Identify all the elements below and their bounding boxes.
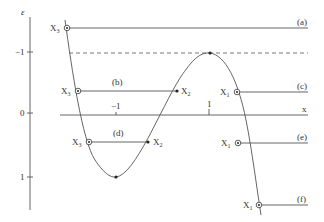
energy-tick-label-1: 1 bbox=[20, 173, 25, 182]
x-tick-label-neg1: −1 bbox=[111, 102, 121, 111]
x1-label-c: X1 bbox=[220, 88, 230, 98]
potential-curve bbox=[65, 20, 261, 215]
energy-tick-label-neg1: −1 bbox=[15, 48, 25, 57]
level-a-label: (a) bbox=[297, 18, 307, 27]
x3-label-d: X3 bbox=[72, 138, 82, 148]
x2-label-d: X2 bbox=[153, 138, 163, 148]
x3-label-b: X3 bbox=[61, 87, 71, 97]
diagram-graphics bbox=[0, 0, 324, 222]
x3-label-a: X3 bbox=[50, 24, 60, 34]
level-b-label: (b) bbox=[112, 78, 123, 87]
energy-tick-label-0: 0 bbox=[20, 109, 25, 118]
x2-dot-d bbox=[146, 140, 149, 143]
level-e-label: (e) bbox=[297, 133, 307, 142]
x2-dot-b bbox=[175, 89, 178, 92]
x2-label-b: X2 bbox=[181, 87, 191, 97]
level-d-label: (d) bbox=[113, 129, 124, 138]
cubic-potential-diagram: ε −1 0 1 −1 1 x (a) (b) (c) (d) (e) (f) … bbox=[0, 0, 324, 222]
minimum-dot bbox=[114, 175, 117, 178]
x1-label-e: X1 bbox=[221, 139, 231, 149]
level-c-label: (c) bbox=[297, 82, 307, 91]
x-axis-label: x bbox=[302, 105, 307, 114]
x-tick-label-1: 1 bbox=[207, 100, 212, 109]
level-f-label: (f) bbox=[297, 195, 306, 204]
energy-axis-label: ε bbox=[21, 8, 25, 17]
maximum-dot bbox=[208, 51, 211, 54]
x1-label-f: X1 bbox=[243, 201, 253, 211]
